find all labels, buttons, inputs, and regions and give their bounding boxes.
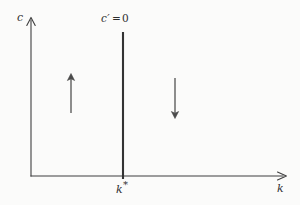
x-axis-label: k <box>277 183 284 194</box>
phase-diagram-figure: c k k* c′=0 <box>0 0 300 205</box>
locus-label-prime: ′ <box>107 12 110 24</box>
locus-label-equals: = <box>112 12 121 24</box>
down-arrow-right-region <box>171 78 178 119</box>
diagram-canvas <box>0 0 300 205</box>
k-star-base: k <box>116 183 123 196</box>
locus-label-value: 0 <box>122 12 129 24</box>
c-prime-zero-label: c′=0 <box>101 13 129 24</box>
up-arrow-left-region <box>67 74 74 114</box>
k-star-superscript: * <box>123 179 128 190</box>
y-axis-label: c <box>17 12 23 23</box>
k-star-tick-label: k* <box>116 180 128 195</box>
